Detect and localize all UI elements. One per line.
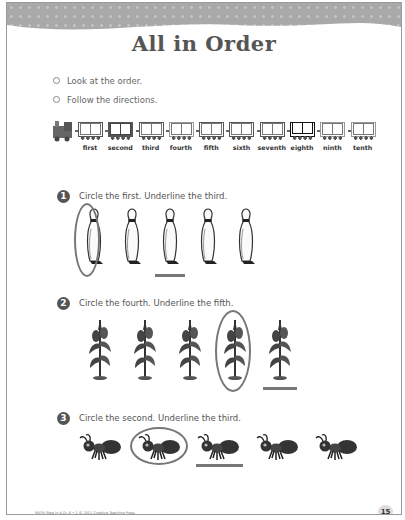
wheels-icon [353, 136, 374, 140]
ordinal-train: firstsecondthirdfourthfifthsixthseventhe… [51, 115, 397, 155]
wheels-icon [141, 136, 162, 140]
instruction-item: Follow the directions. [53, 90, 157, 109]
wheels-icon [231, 136, 252, 140]
corn-stalk-icon [87, 316, 113, 386]
instruction-text: Follow the directions. [67, 95, 157, 105]
page-number-badge: 15 [378, 505, 393, 515]
bullet-ring-icon [53, 77, 60, 84]
train-car-icon [290, 123, 315, 137]
corn-stalk-row [77, 316, 302, 390]
instruction-item: Look at the order. [53, 71, 157, 90]
instruction-list: Look at the order. Follow the directions… [53, 71, 157, 109]
train-engine-icon [51, 120, 75, 142]
train-car-icon [351, 123, 376, 137]
ant-icon [256, 433, 300, 465]
question-prompt: Circle the first. Underline the third. [79, 191, 227, 201]
corn-stalk-icon [177, 316, 203, 386]
ant-icon [315, 433, 359, 465]
corn-stalk-item [167, 316, 212, 390]
bowling-pin-icon [159, 207, 181, 269]
train-car-icon [260, 123, 285, 137]
wheels-icon [262, 136, 283, 140]
ant-item [307, 433, 366, 463]
wheels-icon [201, 136, 222, 140]
worksheet-page: All in Order Look at the order. Follow t… [6, 2, 402, 515]
wheels-icon [110, 136, 131, 140]
question-3: 3 Circle the second. Underline the third… [57, 411, 241, 425]
train-car-icon [78, 123, 103, 137]
circle-mark [215, 310, 251, 392]
underline-mark [196, 464, 243, 467]
corn-stalk-item [122, 316, 167, 390]
ant-item [189, 433, 248, 463]
bowling-pin-item [189, 207, 227, 273]
question-2: 2 Circle the fourth. Underline the fifth… [57, 296, 233, 310]
corn-stalk-item [257, 316, 302, 390]
question-number-badge: 2 [57, 297, 70, 310]
question-number-badge: 3 [57, 412, 70, 425]
question-prompt: Circle the fourth. Underline the fifth. [79, 298, 233, 308]
page-title: All in Order [7, 31, 401, 56]
bowling-pin-icon [197, 207, 219, 269]
train-car-icon [108, 123, 133, 137]
underline-mark [155, 274, 185, 277]
wheels-icon [171, 136, 192, 140]
circle-mark [130, 427, 188, 465]
bowling-pin-item [113, 207, 151, 273]
train-car-tenth: tenth [348, 115, 378, 155]
ant-item [71, 433, 130, 463]
corn-stalk-icon [132, 316, 158, 386]
corn-stalk-item [77, 316, 122, 390]
ant-icon [79, 433, 123, 465]
question-prompt: Circle the second. Underline the third. [79, 413, 241, 423]
train-car-icon [169, 123, 194, 137]
question-number-badge: 1 [57, 190, 70, 203]
ant-icon [197, 433, 241, 465]
ant-item [248, 433, 307, 463]
wheels-icon [80, 136, 101, 140]
corn-stalk-item [212, 316, 257, 390]
circle-mark [74, 203, 100, 277]
bowling-pin-icon [235, 207, 257, 269]
footer-credit: MATH Step In 4 Gr. K • 1 © 2011 Creative… [35, 511, 135, 515]
bowling-pin-item [151, 207, 189, 273]
instruction-text: Look at the order. [67, 76, 142, 86]
bowling-pin-icon [121, 207, 143, 269]
train-car-icon [199, 123, 224, 137]
wheels-icon [322, 136, 343, 140]
ant-row [71, 433, 366, 463]
question-1: 1 Circle the first. Underline the third. [57, 189, 227, 203]
train-car-icon [139, 123, 164, 137]
bullet-ring-icon [53, 96, 60, 103]
bowling-pin-item [75, 207, 113, 273]
train-car-icon [320, 123, 345, 137]
bowling-pin-row [75, 207, 265, 273]
train-car-icon [229, 123, 254, 137]
train-cars: firstsecondthirdfourthfifthsixthseventhe… [75, 115, 378, 155]
ant-item [130, 433, 189, 463]
bowling-pin-item [227, 207, 265, 273]
wheels-icon [292, 136, 313, 140]
corn-stalk-icon [267, 316, 293, 386]
ordinal-label: tenth [344, 144, 382, 151]
underline-mark [263, 387, 297, 390]
